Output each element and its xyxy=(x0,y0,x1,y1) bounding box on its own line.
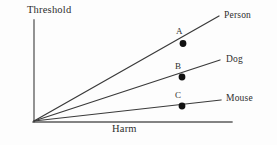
series-line-dog xyxy=(34,60,220,121)
series-lines-group xyxy=(34,16,221,121)
point-label-a: A xyxy=(176,27,183,36)
data-point-c xyxy=(179,103,186,110)
chart-canvas xyxy=(0,0,277,145)
x-axis-label: Harm xyxy=(112,124,137,135)
series-label-person: Person xyxy=(224,11,251,21)
data-point-a xyxy=(180,40,187,47)
threshold-harm-chart: Threshold Harm Person Dog Mouse A B C xyxy=(0,0,277,145)
series-label-dog: Dog xyxy=(226,55,243,65)
axes-group xyxy=(33,20,232,122)
series-line-mouse xyxy=(34,100,221,121)
data-point-b xyxy=(179,74,186,81)
series-label-mouse: Mouse xyxy=(226,94,253,104)
y-axis-label: Threshold xyxy=(27,5,71,16)
point-label-b: B xyxy=(175,62,181,71)
series-line-person xyxy=(34,16,219,121)
point-label-c: C xyxy=(175,91,181,100)
